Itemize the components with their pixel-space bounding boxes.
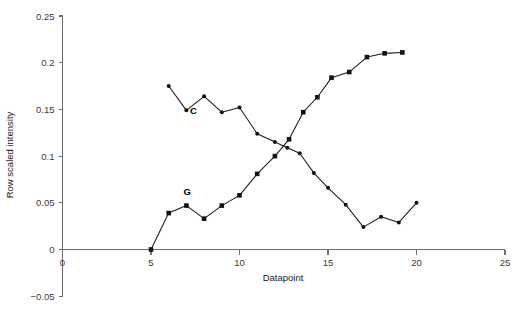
x-tick-label: 0 (60, 257, 65, 268)
data-point-marker (397, 220, 401, 224)
series-label-c: C (190, 105, 197, 116)
x-axis-title: Datapoint (263, 272, 304, 283)
y-tick-label: −0.05 (30, 291, 54, 302)
data-point-marker (285, 146, 289, 150)
y-tick-label: 0.25 (36, 11, 55, 22)
data-point-marker (220, 203, 225, 208)
data-point-marker (379, 215, 383, 219)
data-point-marker (400, 50, 405, 55)
data-point-marker (202, 216, 207, 221)
y-tick-label: 0.05 (36, 197, 55, 208)
chart-background (0, 0, 515, 311)
data-point-marker (166, 211, 171, 216)
y-axis-title: Row scaled intensity (4, 111, 15, 198)
data-point-marker (329, 75, 334, 80)
data-point-marker (220, 110, 224, 114)
data-point-marker (415, 201, 419, 205)
data-point-marker (149, 247, 154, 252)
data-point-marker (238, 106, 242, 110)
data-point-marker (273, 140, 277, 144)
data-point-marker (167, 84, 171, 88)
data-point-marker (255, 132, 259, 136)
data-point-marker (287, 137, 292, 142)
series-label-g: G (184, 186, 191, 197)
x-tick-label: 10 (234, 257, 245, 268)
x-tick-label: 25 (500, 257, 511, 268)
chart-canvas: −0.0500.050.10.150.20.25 0510152025 CG D… (0, 0, 515, 311)
y-tick-label: 0.15 (36, 104, 55, 115)
y-tick-label: 0.2 (41, 57, 54, 68)
data-point-marker (344, 203, 348, 207)
data-point-marker (202, 94, 206, 98)
data-point-marker (184, 203, 189, 208)
data-point-marker (365, 55, 370, 60)
data-point-marker (298, 151, 302, 155)
data-point-marker (347, 70, 352, 75)
data-point-marker (361, 225, 365, 229)
data-point-marker (273, 154, 278, 159)
y-tick-label: 0.1 (41, 151, 54, 162)
y-tick-label: 0 (49, 244, 54, 255)
data-point-marker (315, 95, 320, 100)
data-point-marker (255, 172, 260, 177)
x-tick-label: 15 (323, 257, 334, 268)
data-point-marker (312, 171, 316, 175)
x-tick-label: 20 (411, 257, 422, 268)
data-point-marker (326, 186, 330, 190)
data-point-marker (382, 51, 387, 56)
data-point-marker (184, 108, 188, 112)
data-point-marker (237, 193, 242, 198)
data-point-marker (301, 110, 306, 115)
x-tick-label: 5 (148, 257, 153, 268)
